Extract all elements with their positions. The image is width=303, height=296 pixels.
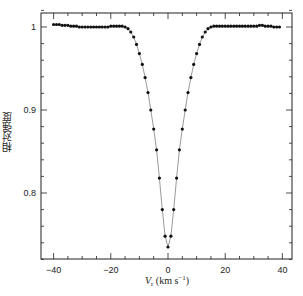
x-axis-ticks: [54, 13, 283, 259]
y-axis-tick-labels: 0.80.91: [23, 22, 36, 198]
data-points: [52, 23, 281, 249]
svg-text:20: 20: [220, 265, 230, 275]
plot-frame: [41, 13, 292, 259]
svg-text:0: 0: [165, 265, 170, 275]
svg-text:1: 1: [31, 22, 36, 32]
line-profile-chart: −40−2002040 0.80.91 Vr (km s−1): [0, 0, 303, 296]
svg-text:0.8: 0.8: [23, 188, 36, 198]
y-axis-ticks: [41, 10, 292, 259]
x-axis-title: Vr (km s−1): [145, 274, 189, 288]
x-axis-tick-labels: −40−2002040: [46, 265, 287, 275]
svg-text:−20: −20: [103, 265, 118, 275]
y-axis-title: 相对强度: [2, 112, 16, 152]
profile-line: [54, 25, 280, 248]
svg-text:−40: −40: [46, 265, 61, 275]
svg-text:0.9: 0.9: [23, 105, 36, 115]
svg-text:40: 40: [277, 265, 287, 275]
